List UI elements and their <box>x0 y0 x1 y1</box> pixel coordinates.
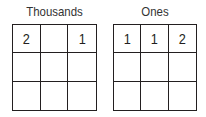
grid-cell <box>169 82 196 110</box>
grid-cell <box>13 82 41 110</box>
grid-cell <box>41 25 69 53</box>
grid-cell <box>141 82 168 110</box>
grid-cell: 2 <box>169 25 196 53</box>
grid-cell: 1 <box>68 25 96 53</box>
thousands-title: Thousands <box>17 4 92 19</box>
grid-cell <box>114 53 141 81</box>
grid-cell: 1 <box>114 25 141 53</box>
grid-cell <box>68 53 96 81</box>
grid-cell <box>169 53 196 81</box>
grid-cell <box>114 82 141 110</box>
grid-cell <box>13 53 41 81</box>
thousands-grid: 2 1 <box>12 24 97 111</box>
ones-title: Ones <box>118 4 192 19</box>
grid-cell <box>141 53 168 81</box>
grid-cell <box>41 82 69 110</box>
grid-cell <box>68 82 96 110</box>
grid-cell: 1 <box>141 25 168 53</box>
grid-cell <box>41 53 69 81</box>
grid-cell: 2 <box>13 25 41 53</box>
ones-grid: 1 1 2 <box>113 24 197 111</box>
